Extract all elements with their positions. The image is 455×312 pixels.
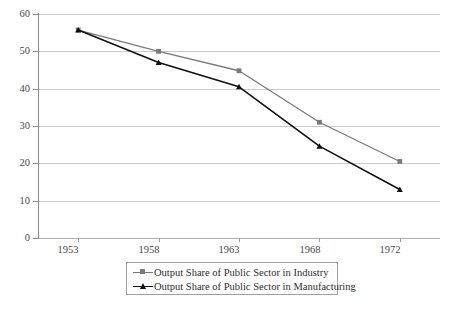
legend-item-industry: Output Share of Public Sector in Industr… <box>132 265 333 279</box>
y-axis-label-20: 20 <box>0 158 30 169</box>
y-axis-label-50: 50 <box>0 46 30 57</box>
y-tick-mark-10 <box>33 201 38 202</box>
x-axis-label-1963: 1963 <box>199 244 259 255</box>
x-tick-mark-1958 <box>159 238 160 242</box>
square-marker-icon <box>132 266 154 278</box>
y-tick-mark-0 <box>33 238 38 239</box>
x-axis-label-1968: 1968 <box>280 244 340 255</box>
y-tick-mark-20 <box>33 163 38 164</box>
legend-item-manufacturing: Output Share of Public Sector in Manufac… <box>132 279 333 293</box>
y-axis-label-40: 40 <box>0 84 30 95</box>
x-tick-mark-1953 <box>78 238 79 242</box>
x-axis-label-1953: 1953 <box>38 244 98 255</box>
line-chart: 60 50 40 30 20 10 0 1953 1958 1963 1968 … <box>0 0 455 312</box>
chart-legend: Output Share of Public Sector in Industr… <box>126 262 338 295</box>
x-tick-mark-1972 <box>400 238 401 242</box>
y-tick-mark-60 <box>33 14 38 15</box>
y-tick-mark-30 <box>33 126 38 127</box>
y-tick-mark-50 <box>33 51 38 52</box>
y-tick-mark-40 <box>33 89 38 90</box>
triangle-marker-icon <box>132 280 154 292</box>
y-axis-label-60: 60 <box>0 9 30 20</box>
legend-label-manufacturing: Output Share of Public Sector in Manufac… <box>154 280 356 293</box>
gridline-10 <box>38 201 440 202</box>
gridline-60 <box>38 14 440 15</box>
gridline-40 <box>38 89 440 90</box>
x-axis-label-1972: 1972 <box>360 244 420 255</box>
plot-area <box>38 14 440 238</box>
gridline-30 <box>38 126 440 127</box>
gridline-50 <box>38 51 440 52</box>
gridline-20 <box>38 163 440 164</box>
y-axis-label-0: 0 <box>0 233 30 244</box>
legend-label-industry: Output Share of Public Sector in Industr… <box>154 266 328 279</box>
y-axis-line <box>38 13 39 239</box>
x-tick-mark-1968 <box>319 238 320 242</box>
x-tick-mark-1963 <box>239 238 240 242</box>
y-axis-label-30: 30 <box>0 121 30 132</box>
y-axis-label-10: 10 <box>0 196 30 207</box>
x-axis-label-1958: 1958 <box>119 244 179 255</box>
